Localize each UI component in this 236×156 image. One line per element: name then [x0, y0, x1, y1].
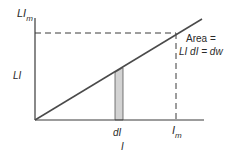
x-axis-label: I — [121, 141, 124, 152]
shaded-strip — [115, 68, 123, 120]
y-axis-label: LI — [13, 70, 22, 81]
energy-diagram: LIm LI dI I Im Area = LI dI = dw — [0, 0, 236, 156]
strip-label: dI — [113, 127, 122, 138]
x-max-label: Im — [172, 124, 182, 140]
y-max-label: LIm — [17, 7, 33, 23]
annotation-line-1: Area = — [186, 33, 216, 44]
annotation-line-2: LI dI = dw — [179, 46, 223, 57]
